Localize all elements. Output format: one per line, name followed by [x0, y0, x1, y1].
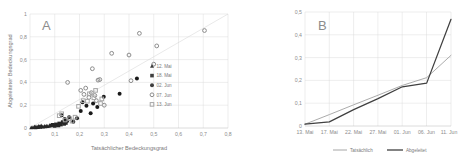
panel-b-letter: B	[318, 18, 327, 33]
panel-a-y-axis-title: Abgeleiteter Bedeckungsgrad	[7, 34, 13, 107]
panel-b-x-tick-labels: 13. Mai 17. Mai 22. Mai 27. Mai 01. Jun …	[296, 129, 457, 135]
scatter-point	[84, 104, 88, 108]
scatter-point	[53, 124, 57, 128]
scatter-point	[135, 76, 139, 80]
panel-b-gridlines	[305, 12, 451, 126]
panel-b-y-tick-labels: 0,5 0,4 0,3 0,2 0,1 0	[295, 9, 302, 129]
panel-b-legend-label-abgeleitet: Abgeleitet	[406, 148, 427, 153]
panel-a-xtick: 0,5	[150, 131, 157, 137]
scatter-point	[137, 31, 141, 35]
panel-b-ytick: 0,5	[295, 9, 302, 15]
scatter-point	[86, 99, 90, 103]
panel-a-y-tick-labels: 1 0,8 0,6 0,4 0,2 0	[20, 11, 27, 131]
panel-a-x-axis-title: Tatsächlicher Bedeckungsgrad	[91, 145, 167, 151]
panel-a-xtick: 0,3	[101, 131, 108, 137]
legend-marker-square	[150, 74, 154, 78]
scatter-point	[57, 124, 61, 128]
panel-b-ytick: 0,3	[295, 55, 302, 61]
scatter-point	[118, 92, 122, 96]
scatter-point	[84, 86, 88, 90]
panel-b-legend-label-tatsaechlich: Tatsächlich	[350, 148, 373, 153]
panel-a-xtick: 0,7	[200, 131, 207, 137]
panel-a-legend: 12. Mai18. Mai02. Jun07. Jun13. Jun	[150, 64, 172, 107]
panel-a-legend-label: 12. Mai	[157, 64, 172, 69]
scatter-point	[155, 44, 159, 48]
figure-container: 1 0,8 0,6 0,4 0,2 0 0 0,1 0,2 0,3 0,4 0,…	[0, 0, 465, 162]
scatter-point	[82, 92, 86, 96]
panel-a-ytick: 1	[24, 11, 27, 17]
panel-b-legend: Tatsächlich Abgeleitet	[333, 148, 427, 153]
scatter-point	[110, 51, 114, 55]
panel-b-xtick: 22. Mai	[345, 129, 362, 135]
scatter-point	[89, 111, 93, 115]
panel-b-ytick: 0,2	[295, 77, 302, 83]
panel-b-ytick: 0,4	[295, 32, 302, 38]
panel-b-svg: 0,5 0,4 0,3 0,2 0,1 0 13. Mai 17. Mai 22…	[285, 0, 465, 162]
panel-a-x-tick-labels: 0 0,1 0,2 0,3 0,4 0,5 0,6 0,7 0,8	[29, 131, 232, 137]
panel-a-legend-label: 13. Jun	[157, 102, 173, 107]
panel-b-ytick: 0,1	[295, 100, 302, 106]
panel-b-xtick: 01. Jun	[394, 129, 411, 135]
scatter-point	[79, 109, 83, 113]
panel-a-ytick: 0,8	[20, 34, 27, 40]
panel-a-ytick: 0,2	[20, 102, 27, 108]
panel-a-legend-label: 18. Mai	[157, 73, 172, 78]
panel-a-xtick: 0	[29, 131, 32, 137]
panel-b-xtick: 13. Mai	[296, 129, 313, 135]
panel-a-xtick: 0,1	[51, 131, 58, 137]
panel-a-ytick: 0	[24, 125, 27, 131]
legend-marker-square-open	[150, 103, 154, 107]
panel-b-xtick: 27. Mai	[369, 129, 386, 135]
panel-b-xtick: 17. Mai	[321, 129, 338, 135]
panel-a-ytick: 0,6	[20, 57, 27, 63]
panel-b-line-chart: 0,5 0,4 0,3 0,2 0,1 0 13. Mai 17. Mai 22…	[285, 0, 465, 162]
panel-a-legend-label: 02. Jun	[157, 83, 173, 88]
scatter-point	[129, 79, 133, 83]
scatter-point	[90, 67, 94, 71]
panel-a-ytick: 0,4	[20, 79, 27, 85]
legend-marker-circle-open	[150, 93, 154, 97]
panel-a-xtick: 0,6	[175, 131, 182, 137]
panel-a-data-points	[29, 29, 206, 130]
legend-marker-circle	[150, 83, 154, 87]
panel-a-xtick: 0,8	[224, 131, 231, 137]
panel-a-xtick: 0,2	[76, 131, 83, 137]
panel-a-xtick: 0,4	[125, 131, 132, 137]
panel-a-legend-label: 07. Jun	[157, 93, 173, 98]
panel-a-scatter-chart: 1 0,8 0,6 0,4 0,2 0 0 0,1 0,2 0,3 0,4 0,…	[0, 0, 285, 162]
panel-b-xtick: 06. Jun	[418, 129, 435, 135]
panel-a-svg: 1 0,8 0,6 0,4 0,2 0 0 0,1 0,2 0,3 0,4 0,…	[0, 0, 285, 162]
panel-b-xtick: 11. Jun	[441, 129, 458, 135]
scatter-point	[87, 96, 91, 100]
panel-a-letter: A	[42, 18, 51, 33]
scatter-point	[99, 102, 103, 106]
